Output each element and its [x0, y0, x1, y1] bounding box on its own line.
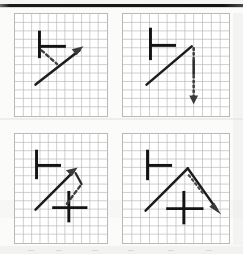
dashed-connector-arrow: [41, 50, 57, 64]
right-tack-glyph: [150, 28, 176, 60]
page-footer-mark-3: [92, 250, 98, 251]
scan-artifact-midline: [0, 118, 243, 120]
arrow-shaft: [147, 46, 192, 84]
page-footer-mark-5: [168, 250, 174, 251]
top-rule-shadow: [0, 7, 243, 8]
panel-bottom-right: [122, 133, 230, 244]
right-tack-glyph: [39, 31, 65, 58]
plus-cross-glyph: [52, 191, 87, 222]
solid-diagonal-up-right-arrow: [36, 167, 78, 209]
page-footer-mark-1: [28, 250, 34, 251]
connector-segment: [76, 173, 82, 184]
arrow-head: [189, 95, 198, 104]
page-footer-mark-4: [128, 250, 134, 251]
plus-cross-glyph: [166, 191, 203, 224]
page-footer-mark-2: [56, 250, 62, 251]
right-tack-glyph: [37, 150, 61, 179]
solid-diagonal-up-right-arrow: [147, 46, 192, 84]
figure-root: [0, 0, 243, 254]
dotted-vertical-down-arrow: [189, 48, 198, 104]
chevron-ascending-segment: [146, 168, 188, 210]
scan-artifact-right-edge: [233, 13, 243, 245]
right-tack-glyph: [148, 150, 173, 180]
panel-top-left: [14, 13, 108, 117]
chevron-descending-segment: [188, 168, 216, 208]
arrow-head: [209, 203, 221, 215]
page-footer-mark-6: [206, 250, 212, 251]
panel-bottom-left: [14, 133, 108, 244]
arrow-shaft: [36, 50, 80, 84]
panel-top-right: [122, 13, 230, 117]
dashed-segment: [41, 50, 57, 64]
